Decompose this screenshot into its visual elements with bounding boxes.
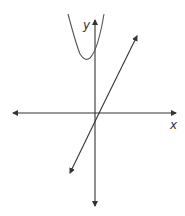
y-axis-label: y xyxy=(82,18,91,32)
line-positive-end xyxy=(103,36,137,105)
coordinate-graph: y x xyxy=(0,0,185,216)
line-negative-end xyxy=(70,105,103,173)
x-axis-label: x xyxy=(169,118,178,132)
